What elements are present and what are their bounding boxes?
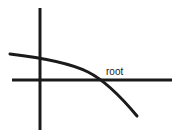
root-of-function-diagram: root	[0, 0, 178, 135]
canvas-background	[0, 0, 178, 135]
root-label: root	[106, 66, 123, 77]
diagram-canvas: root	[0, 0, 178, 135]
